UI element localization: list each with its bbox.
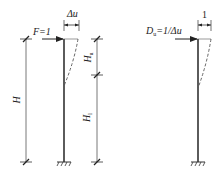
lower-height-subscript: l xyxy=(87,113,93,115)
upper-height-subscript: u xyxy=(88,52,94,55)
figure-canvas: Δu F=1 H Hu Hl 1 Du=1/Δu xyxy=(0,0,222,174)
lower-height-symbol: H xyxy=(81,115,92,122)
upper-height-label: Hu xyxy=(83,52,94,62)
right-fixed-support-icon xyxy=(191,162,205,166)
left-column xyxy=(64,39,78,162)
right-unit-displacement-dimension xyxy=(198,20,211,31)
lower-height-label: Hl xyxy=(82,113,93,122)
right-deflection-curve xyxy=(198,39,211,88)
stiffness-label: Du=1/Δu xyxy=(146,26,182,37)
upper-height-symbol: H xyxy=(82,55,93,62)
left-deflection-curve xyxy=(64,39,78,86)
left-displacement-dimension xyxy=(64,20,79,31)
total-height-label: H xyxy=(12,96,22,103)
unit-displacement-label: 1 xyxy=(202,10,207,20)
left-fixed-support-icon xyxy=(57,162,71,166)
stiffness-expression: =1/Δu xyxy=(156,25,181,36)
right-column xyxy=(198,39,211,162)
displacement-label: Δu xyxy=(67,9,78,19)
left-total-height-dimension xyxy=(20,36,32,165)
force-label: F=1 xyxy=(33,27,51,37)
